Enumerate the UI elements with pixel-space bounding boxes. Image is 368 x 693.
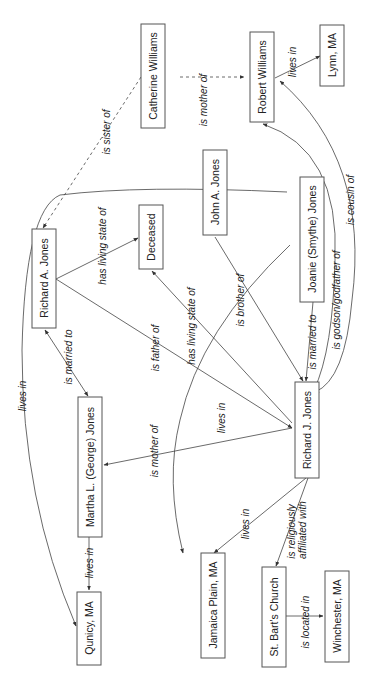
- label-is-father-of: is father of: [150, 323, 161, 371]
- svg-text:Richard J. Jones: Richard J. Jones: [301, 391, 313, 469]
- edge-brother-of: [215, 237, 303, 381]
- node-richard-j-jones: Richard J. Jones: [295, 382, 319, 478]
- label-is-mother-of-top: is mother of: [198, 73, 209, 126]
- node-quincy-ma: Qunicy, MA: [77, 592, 101, 665]
- svg-text:Catherine Williams: Catherine Williams: [147, 32, 159, 120]
- node-st-barts-church: St. Bart's Church: [262, 567, 286, 667]
- svg-text:Deceased: Deceased: [145, 213, 157, 260]
- node-deceased: Deceased: [139, 205, 163, 269]
- edge-richard-j-state-deceased: [152, 271, 292, 423]
- svg-text:Joanie (Smythe) Jones: Joanie (Smythe) Jones: [306, 185, 318, 292]
- edge-martha-mother-of-richard-j: [104, 428, 292, 465]
- svg-text:Lynn, MA: Lynn, MA: [326, 33, 338, 77]
- svg-text:John A. Jones: John A. Jones: [209, 159, 221, 225]
- node-jamaica-plain-ma: Jamaica Plain, MA: [201, 553, 225, 658]
- label-is-located-in: is located in: [300, 595, 311, 648]
- label-lives-in-john-a: lives in: [17, 380, 28, 411]
- label-is-sister-of: is sister of: [101, 108, 112, 154]
- label-has-living-state-of-1: has living state of: [97, 206, 108, 284]
- label-lives-in-joanie: lives in: [216, 402, 227, 433]
- label-lives-in-richard-j: lives in: [240, 508, 251, 539]
- label-is-married-to-left: is married to: [63, 329, 74, 384]
- node-catherine-williams: Catherine Williams: [141, 24, 165, 128]
- label-is-brother-of: is brother of: [235, 272, 246, 326]
- node-martha-jones: Martha L. (George) Jones: [78, 397, 102, 537]
- svg-text:Robert Williams: Robert Williams: [256, 40, 268, 114]
- label-is-mother-of: is mother of: [149, 424, 160, 477]
- label-has-living-state-of-2: has living state of: [186, 286, 197, 364]
- label-affiliated-line: affiliated with: [297, 501, 308, 559]
- label-is-married-to-right: is married to: [307, 314, 318, 369]
- svg-text:St. Bart's Church: St. Bart's Church: [268, 577, 280, 656]
- node-joanie-jones: Joanie (Smythe) Jones: [300, 177, 324, 302]
- label-religiously-line: is religiously: [286, 503, 297, 558]
- node-john-a-jones: John A. Jones: [203, 150, 227, 235]
- svg-text:Jamaica Plain, MA: Jamaica Plain, MA: [207, 562, 219, 649]
- svg-text:Richard A. Jones: Richard A. Jones: [38, 238, 50, 317]
- svg-text:Winchester, MA: Winchester, MA: [331, 579, 343, 653]
- node-richard-a-jones: Richard A. Jones: [32, 229, 56, 328]
- label-is-cousin-of: is cousin of: [345, 174, 356, 225]
- relationship-diagram: is mother of is sister of lives in is co…: [0, 0, 368, 693]
- svg-text:Qunicy, MA: Qunicy, MA: [83, 601, 95, 654]
- node-lynn-ma: Lynn, MA: [320, 25, 344, 86]
- svg-text:Martha L. (George) Jones: Martha L. (George) Jones: [84, 407, 96, 527]
- label-is-godson-godfather-of: is godson/godfather of: [331, 249, 342, 349]
- label-lives-in-martha: lives in: [84, 547, 95, 578]
- label-is-religiously-affiliated-with: is religiously affiliated with: [286, 501, 308, 559]
- node-robert-williams: Robert Williams: [250, 32, 274, 122]
- node-winchester-ma: Winchester, MA: [325, 571, 349, 662]
- label-lives-in-lynn: lives in: [287, 46, 298, 77]
- edge-catherine-sister-of-richard-a: [43, 77, 141, 228]
